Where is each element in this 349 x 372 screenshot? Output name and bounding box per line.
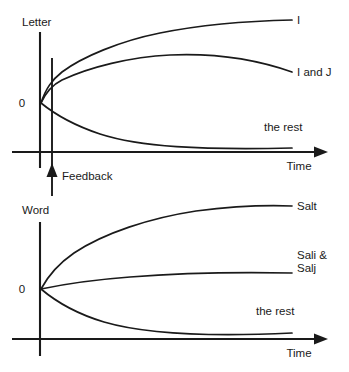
word-curve-the-rest xyxy=(41,289,292,335)
word-series-label-salj-line2: Salj xyxy=(297,262,316,274)
diagram-canvas: Letter 0 Time I I and J the rest Feedbac… xyxy=(0,0,349,372)
word-y-axis-label: Word xyxy=(22,204,49,216)
word-x-axis-arrowhead xyxy=(314,334,328,345)
word-level-panel: Word 0 Time Salt Sali & Salj the rest xyxy=(12,200,328,359)
word-series-label-salt: Salt xyxy=(297,200,318,212)
letter-origin-label: 0 xyxy=(19,97,25,109)
word-origin-label: 0 xyxy=(19,283,25,295)
feedback-label: Feedback xyxy=(62,170,113,182)
activation-diagram: Letter 0 Time I I and J the rest Feedbac… xyxy=(0,0,349,372)
letter-y-axis-label: Letter xyxy=(22,16,52,28)
letter-x-axis-arrowhead xyxy=(314,147,328,158)
letter-series-label-i: I xyxy=(297,14,300,26)
word-series-label-sali-line1: Sali & xyxy=(297,249,327,261)
word-curve-salt xyxy=(41,206,292,289)
letter-curve-the-rest xyxy=(41,103,292,149)
letter-series-label-i-and-j: I and J xyxy=(297,66,332,78)
letter-series-label-the-rest: the rest xyxy=(264,121,303,133)
feedback-arrow-head-icon xyxy=(47,163,58,177)
letter-x-axis-label: Time xyxy=(286,160,311,172)
letter-level-panel: Letter 0 Time I I and J the rest xyxy=(12,14,332,172)
word-x-axis-label: Time xyxy=(286,347,311,359)
word-series-label-the-rest: the rest xyxy=(256,305,295,317)
word-curve-sali-salj xyxy=(41,273,292,289)
